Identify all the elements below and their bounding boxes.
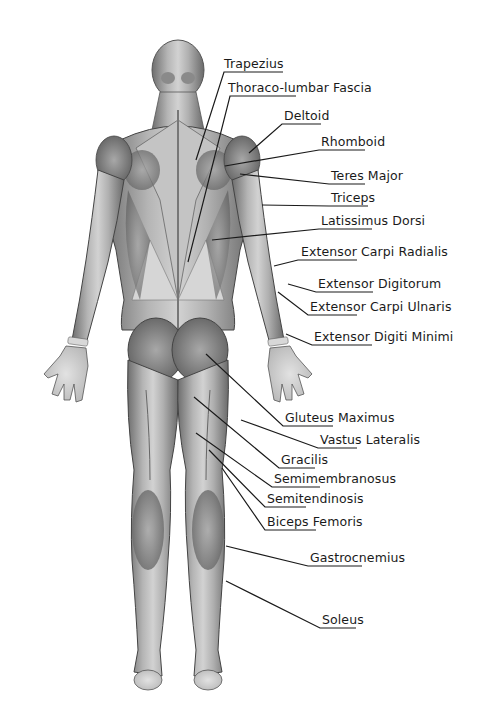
muscle-label-trapezius: Trapezius: [224, 56, 284, 71]
muscle-label-semimembranosus: Semimembranosus: [274, 471, 396, 486]
muscle-label-semitendinosis: Semitendinosis: [267, 491, 364, 506]
muscle-label-extensor-carpi-ulnaris: Extensor Carpi Ulnaris: [310, 299, 452, 314]
muscle-label-biceps-femoris: Biceps Femoris: [267, 514, 363, 529]
muscle-label-vastus-lateralis: Vastus Lateralis: [320, 432, 420, 447]
muscle-diagram: TrapeziusThoraco-lumbar FasciaDeltoidRho…: [0, 0, 481, 710]
muscle-label-extensor-carpi-radialis: Extensor Carpi Radialis: [301, 244, 448, 259]
muscle-label-extensor-digitorum: Extensor Digitorum: [318, 276, 441, 291]
head: [152, 40, 204, 100]
muscle-label-soleus: Soleus: [322, 612, 364, 627]
leader-line: [249, 124, 321, 153]
muscle-label-gracilis: Gracilis: [281, 452, 328, 467]
human-body-posterior-figure: [0, 0, 481, 710]
muscle-label-thoraco-lumbar-fascia: Thoraco-lumbar Fascia: [228, 80, 372, 95]
muscle-label-latissimus-dorsi: Latissimus Dorsi: [321, 213, 425, 228]
muscle-label-gluteus-maximus: Gluteus Maximus: [285, 410, 395, 425]
leader-line: [274, 260, 357, 266]
muscle-label-teres-major: Teres Major: [331, 168, 403, 183]
leader-line: [262, 205, 368, 206]
muscle-label-rhomboid: Rhomboid: [321, 134, 385, 149]
muscle-label-extensor-digiti-minimi: Extensor Digiti Minimi: [314, 329, 453, 344]
muscle-label-triceps: Triceps: [331, 190, 375, 205]
muscle-label-deltoid: Deltoid: [284, 108, 329, 123]
muscle-label-gastrocnemius: Gastrocnemius: [310, 550, 405, 565]
